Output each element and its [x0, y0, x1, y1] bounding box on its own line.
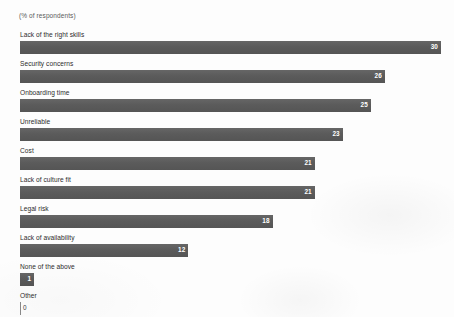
bar[interactable]: 26 — [20, 70, 385, 83]
axis-note: (% of respondents) — [19, 12, 76, 19]
bar-category-label: Onboarding time — [20, 88, 70, 97]
bar-track: 18 — [20, 215, 448, 228]
bar[interactable]: 0 — [20, 302, 21, 315]
bar-value-label: 26 — [375, 73, 382, 79]
chart-page: (% of respondents) Lack of the right ski… — [0, 0, 454, 317]
bar[interactable]: 30 — [20, 41, 441, 54]
bar-category-label: Lack of the right skills — [20, 30, 84, 39]
bar-value-label: 25 — [361, 102, 368, 108]
bar-track: 1 — [20, 273, 448, 286]
bar[interactable]: 1 — [20, 273, 34, 286]
bar-value-label: 21 — [304, 160, 311, 166]
bar-row: Legal risk 18 — [0, 204, 454, 233]
bar-category-label: Lack of culture fit — [20, 175, 71, 184]
bar-value-label: 21 — [304, 189, 311, 195]
bar-row: None of the above 1 — [0, 262, 454, 291]
bar-track: 30 — [20, 41, 448, 54]
bar-row: Unreliable 23 — [0, 117, 454, 146]
bar-row: Security concerns 26 — [0, 59, 454, 88]
bar[interactable]: 23 — [20, 128, 343, 141]
bar-track: 26 — [20, 70, 448, 83]
bar-track: 23 — [20, 128, 448, 141]
bar-row: Onboarding time 25 — [0, 88, 454, 117]
bar[interactable]: 21 — [20, 186, 315, 199]
bar-row: Other 0 — [0, 291, 454, 317]
bar-row: Lack of culture fit 21 — [0, 175, 454, 204]
bar-category-label: Other — [20, 291, 37, 300]
bar-category-label: Legal risk — [20, 204, 49, 213]
bar-track: 0 — [20, 302, 448, 315]
bar-value-label: 30 — [431, 44, 438, 50]
bar-category-label: Security concerns — [20, 59, 73, 68]
bar-track: 12 — [20, 244, 448, 257]
bar-track: 21 — [20, 186, 448, 199]
bar-value-label: 1 — [27, 276, 31, 282]
bar-row: Cost 21 — [0, 146, 454, 175]
bar-row: Lack of the right skills 30 — [0, 30, 454, 59]
bar-row: Lack of availability 12 — [0, 233, 454, 262]
bar-value-label: 23 — [332, 131, 339, 137]
bar-value-label: 12 — [178, 247, 185, 253]
bar[interactable]: 21 — [20, 157, 315, 170]
bar-value-label: 0 — [21, 305, 27, 311]
bar-chart: Lack of the right skills 30 Security con… — [0, 30, 454, 317]
bar-category-label: None of the above — [20, 262, 75, 271]
bar[interactable]: 18 — [20, 215, 273, 228]
bar[interactable]: 25 — [20, 99, 371, 112]
bar-category-label: Unreliable — [20, 117, 50, 126]
bar[interactable]: 12 — [20, 244, 188, 257]
bar-category-label: Lack of availability — [20, 233, 75, 242]
bar-track: 21 — [20, 157, 448, 170]
bar-category-label: Cost — [20, 146, 34, 155]
bar-track: 25 — [20, 99, 448, 112]
bar-value-label: 18 — [262, 218, 269, 224]
